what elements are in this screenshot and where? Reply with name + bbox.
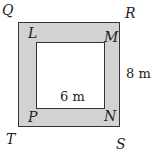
vertex-label-q: Q [2, 3, 13, 17]
dimension-label-border: 8 m [126, 67, 151, 80]
dimension-label-inner-width: 6 m [60, 90, 85, 103]
vertex-label-n: N [104, 109, 116, 123]
vertex-label-p: P [28, 110, 37, 124]
vertex-label-l: L [28, 26, 37, 40]
vertex-label-t: T [6, 132, 15, 146]
vertex-label-s: S [116, 137, 126, 151]
vertex-label-m: M [104, 30, 118, 44]
vertex-label-r: R [125, 6, 136, 20]
